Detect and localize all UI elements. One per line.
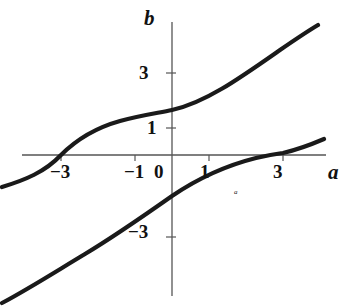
- plot-canvas: [0, 0, 352, 306]
- chart-figure: −3 −1 0 1 3 3 1 −3 b a a: [0, 0, 352, 306]
- origin-label: 0: [154, 162, 164, 181]
- y-tick-label-1: 1: [147, 118, 157, 137]
- axis-lines: [22, 22, 326, 296]
- x-tick-label--3: −3: [50, 162, 70, 181]
- x-tick-label-1: 1: [200, 162, 210, 181]
- x-tick-label--1: −1: [124, 162, 144, 181]
- y-tick-label--3: −3: [128, 222, 148, 241]
- stray-mark-a: a: [234, 188, 238, 196]
- y-axis-label: b: [144, 8, 155, 29]
- y-tick-label-3: 3: [139, 63, 149, 82]
- x-axis-label: a: [328, 162, 339, 183]
- x-tick-label-3: 3: [273, 162, 283, 181]
